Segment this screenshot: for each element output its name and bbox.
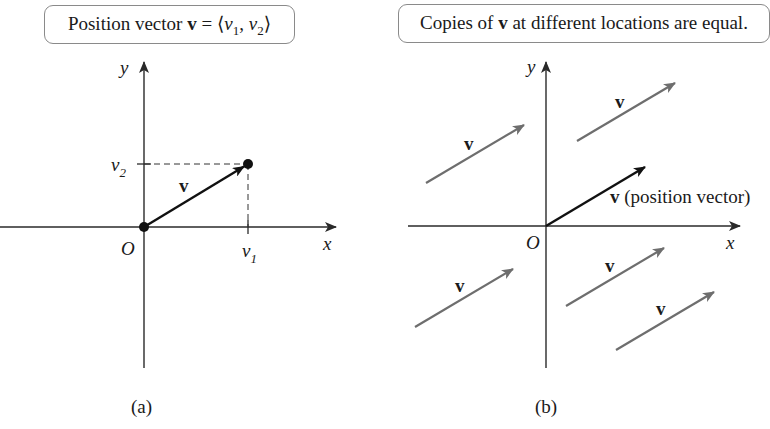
panel-a-y-label: y	[118, 57, 129, 78]
panel-a-position-vector	[144, 167, 244, 228]
panel-b-copy-vector-lower-middle	[566, 248, 664, 306]
panel-a-endpoint-dot	[243, 159, 253, 169]
panel-a-x-label: x	[322, 233, 332, 254]
panel-b-copy-vector-upper-right	[577, 83, 675, 141]
panel-a-origin-dot	[139, 222, 149, 232]
panel-a-origin-label: O	[121, 238, 135, 259]
panel-b-copy-label-upper-right: v	[615, 91, 625, 112]
panel-a-v1-label: v1	[242, 240, 257, 266]
panel-b-origin-label: O	[526, 232, 540, 253]
panel-b: y x O v (position vector) v v v v v (b)	[408, 56, 750, 418]
panel-b-position-vector-label: v (position vector)	[610, 186, 750, 208]
panel-a-caption: (a)	[131, 396, 152, 418]
panel-a-v2-label: v2	[111, 154, 126, 180]
panel-b-copy-label-lower-left: v	[455, 275, 465, 296]
panel-a: y x O v v2 v1 (a)	[0, 57, 336, 418]
panel-b-x-label: x	[725, 232, 735, 253]
panel-b-copy-label-lower-right: v	[656, 298, 666, 319]
panel-b-y-label: y	[525, 56, 536, 77]
panel-a-vector-label: v	[179, 175, 189, 196]
panel-b-caption: (b)	[535, 396, 557, 418]
panel-b-copy-vector-upper-left	[426, 125, 524, 183]
panel-b-copy-label-upper-left: v	[464, 133, 474, 154]
panel-b-copy-label-lower-middle: v	[605, 255, 615, 276]
